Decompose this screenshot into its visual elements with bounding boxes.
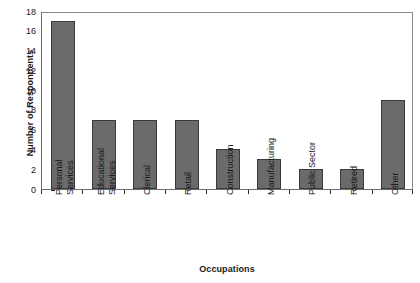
x-tick-label-line: Personal — [54, 159, 65, 195]
x-tick-label: PersonalServices — [54, 159, 75, 195]
y-tick-label: 16 — [14, 27, 36, 36]
x-tick-label-line: Retail — [183, 172, 193, 195]
x-tick-mark — [82, 190, 83, 194]
x-axis-title: Occupations — [41, 264, 413, 274]
x-tick-label-line: Services — [106, 148, 117, 195]
x-tick-label-line: Services — [65, 159, 76, 195]
x-tick-mark — [165, 190, 166, 194]
y-tick-label: 10 — [14, 87, 36, 96]
x-tick-label: Retail — [183, 172, 194, 195]
y-tick-label: 2 — [14, 166, 36, 175]
x-tick-label-line: Construction — [225, 144, 235, 195]
x-tick-label-line: Other — [390, 172, 400, 195]
x-tick-label-line: Educational — [96, 148, 107, 195]
x-tick-mark — [124, 190, 125, 194]
x-tick-mark — [248, 190, 249, 194]
x-tick-mark — [289, 190, 290, 194]
x-tick-mark — [372, 190, 373, 194]
bar-chart-figure: Number of Respondents 024681012141618 Pe… — [0, 0, 420, 283]
x-tick-label-line: Clerical — [142, 165, 152, 195]
bar-slot — [125, 13, 166, 189]
x-tick-label: Clerical — [142, 165, 153, 195]
x-tick-mark — [41, 190, 42, 194]
x-axis-category-labels: PersonalServicesEducationalServicesCleri… — [41, 195, 413, 257]
y-tick-label: 8 — [14, 106, 36, 115]
y-tick-label: 6 — [14, 126, 36, 135]
x-tick-label: Manufacturing — [266, 138, 277, 195]
x-tick-label: Public Sector — [307, 142, 318, 195]
x-tick-mark — [412, 190, 413, 194]
x-tick-label-line: Public Sector — [307, 142, 317, 195]
y-tick-label: 0 — [14, 186, 36, 195]
y-tick-label: 12 — [14, 67, 36, 76]
x-tick-label: Other — [390, 172, 401, 195]
y-axis-tick-labels: 024681012141618 — [14, 12, 36, 190]
bar-slot — [373, 13, 414, 189]
bar-slot — [166, 13, 207, 189]
x-tick-label: Construction — [225, 144, 236, 195]
x-tick-mark — [206, 190, 207, 194]
y-tick-label: 14 — [14, 47, 36, 56]
x-tick-label-line: Retired — [349, 166, 359, 195]
x-tick-label: EducationalServices — [96, 148, 117, 195]
y-tick-label: 4 — [14, 146, 36, 155]
bar-slot — [331, 13, 372, 189]
x-tick-label: Retired — [349, 166, 360, 195]
y-tick-label: 18 — [14, 8, 36, 17]
x-tick-label-line: Manufacturing — [266, 138, 276, 195]
x-tick-mark — [330, 190, 331, 194]
